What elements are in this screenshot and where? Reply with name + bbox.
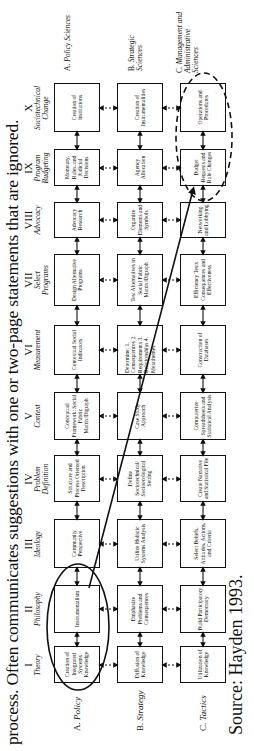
cell-a-v: Conceptual Framework: Social Fabric Matr… — [54, 392, 100, 440]
cell-b-v: Case Study Approach — [117, 392, 163, 440]
col-header-v: VContext — [22, 394, 42, 438]
col-header-x: XSociotechnical Change — [22, 81, 50, 135]
col-header-vii: VIISelect Programs — [22, 259, 50, 301]
caption-text: process. Often communicates suggestions … — [1, 0, 23, 745]
cell-c-viii: Networking and Lobbying — [180, 202, 226, 238]
row-label-tactics: C. Tactics — [198, 695, 208, 731]
row-name: Tactics — [198, 695, 208, 720]
row-letter: C. — [198, 723, 208, 731]
col-sub: Ideology — [34, 522, 42, 566]
sciences-name: Management and Administrative Sciences — [175, 12, 200, 73]
source-citation: Source: Hayden 1993. — [226, 575, 247, 735]
sciences-letter: A. — [63, 64, 72, 71]
row-letter: B. — [135, 723, 145, 731]
rotated-diagram: process. Often communicates suggestions … — [0, 0, 254, 751]
row-label-policy: A. Policy — [72, 697, 82, 731]
col-sub: Sociotechnical Change — [34, 81, 50, 135]
col-header-vi: VIMeasurement — [22, 327, 42, 373]
cell-b-vi: Determine: 1. Consequences 2. Requiremen… — [117, 325, 163, 375]
col-sub: Advocacy — [34, 199, 42, 241]
cell-c-iv: Create Narrative and Statistical File — [180, 455, 226, 502]
cell-b-iv: Define Sociotechnical/ Socioecological S… — [117, 455, 163, 502]
col-sub: Select Programs — [34, 259, 50, 301]
cell-a-vii: Design Alternative Programs — [54, 254, 100, 306]
cell-b-vii: Test Alternatives in Social Fabric Matri… — [117, 254, 163, 306]
cell-c-i: Utilization of Knowledge — [180, 646, 226, 683]
cell-b-ix: Agency Allocation — [117, 149, 163, 186]
row-name: Policy — [72, 697, 82, 720]
cell-a-i: Creation of Integrated Systems Knowledge — [54, 646, 100, 683]
sciences-name: Policy Sciences — [63, 15, 72, 62]
cell-c-vii: Efficiency Tests Consequences and Effect… — [180, 254, 226, 306]
col-sub: Program Budgeting — [34, 148, 50, 188]
cell-b-x: Creation of Instrumentalities — [117, 83, 163, 132]
cell-a-iii: Community Perspective — [54, 519, 100, 568]
cell-a-ix: Monetary, Rules, and Judicial Decisions — [54, 149, 100, 186]
cell-c-vi: Construction of Databases — [180, 325, 226, 375]
col-sub: Theory — [34, 645, 42, 685]
cell-a-vi: Contextual Social Indicators — [54, 325, 100, 375]
col-header-ii: IIPhilosophy — [22, 587, 42, 631]
col-header-ix: IXProgram Budgeting — [22, 148, 50, 188]
sciences-label-policy: A. Policy Sciences — [64, 7, 72, 71]
row-label-strategy: B. Strategy — [135, 690, 145, 731]
cell-c-iii: Select Beliefs, Attitudes, Actions, and … — [180, 519, 226, 568]
col-header-iv: IVProblem Definition — [22, 459, 50, 499]
col-sub: Problem Definition — [34, 459, 50, 499]
cell-c-v: Computerize Spreadsheets and Statistical… — [180, 392, 226, 440]
cell-a-x: Creation of Institutions — [54, 83, 100, 132]
col-header-i: ITheory — [22, 645, 42, 685]
cell-b-ii: Emphasize Problems and Consequences — [117, 585, 163, 633]
cell-b-iii: Utilize Holistic Systems Analysis — [117, 519, 163, 568]
col-header-iii: IIIIdeology — [22, 522, 42, 566]
row-letter: A. — [72, 722, 82, 731]
cell-c-x: Operations and Procedures — [180, 83, 226, 132]
cell-a-iv: Structure and Process Oriented Descripti… — [54, 455, 100, 502]
vertical-arrows — [101, 108, 179, 665]
row-name: Strategy — [135, 690, 145, 720]
sciences-label-management: C. Management and Administrative Science… — [176, 9, 200, 73]
cell-b-i: Diffusion of Knowledge — [117, 646, 163, 683]
cell-a-ii: Instrumentalism — [54, 585, 100, 633]
cell-b-viii: Organize Elements and Symbols — [117, 202, 163, 238]
cell-c-ix: Budget Requests and Rule Changes — [180, 149, 226, 186]
cell-c-ii: Build Participatory Democracy — [180, 585, 226, 633]
sciences-label-strategic: B. Strategic Sciences — [128, 9, 144, 71]
col-header-viii: VIIIAdvocacy — [22, 199, 42, 241]
col-sub: Philosophy — [34, 587, 42, 631]
cell-a-viii: Advocacy Research — [54, 202, 100, 238]
col-sub: Context — [34, 394, 42, 438]
col-sub: Measurement — [34, 327, 42, 373]
